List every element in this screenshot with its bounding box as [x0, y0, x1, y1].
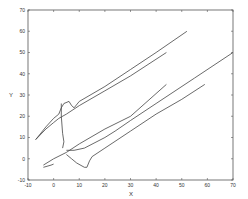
y-tick-label: 70 [19, 7, 25, 13]
y-axis-label: Y [9, 92, 13, 98]
plot-lines [36, 31, 233, 167]
y-tick-label: 10 [19, 134, 25, 140]
y-tick-label: 0 [22, 156, 25, 162]
x-tick-label: 20 [102, 182, 108, 188]
x-tick-label: 60 [205, 182, 211, 188]
series-curve-6 [66, 53, 233, 151]
series-curve-1 [36, 53, 167, 140]
x-axis-label: X [129, 191, 133, 197]
y-tick-label: 60 [19, 28, 25, 34]
chart: -10010203040506070-10010203040506070 X Y [0, 0, 248, 199]
x-tick-label: -10 [24, 182, 31, 188]
axes-frame [28, 10, 233, 180]
series-curve-2 [36, 31, 187, 139]
series-curve-3 [61, 104, 64, 149]
x-tick-label: 10 [76, 182, 82, 188]
y-tick-label: 50 [19, 49, 25, 55]
x-tick-label: 70 [230, 182, 236, 188]
x-tick-label: 0 [52, 182, 55, 188]
x-tick-label: 30 [128, 182, 134, 188]
x-tick-label: 40 [153, 182, 159, 188]
y-tick-label: 20 [19, 113, 25, 119]
y-tick-label: -10 [18, 177, 25, 183]
y-tick-label: 40 [19, 71, 25, 77]
x-tick-label: 50 [179, 182, 185, 188]
y-tick-label: 30 [19, 92, 25, 98]
